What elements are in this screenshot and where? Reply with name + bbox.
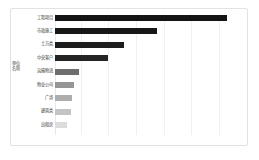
plot-area: [55, 14, 241, 135]
bar: [55, 15, 227, 21]
bar-chart-figure: 单位名称 工程项目市政施工土方类中央客户运输物流物业公司广场建筑类出租房: [0, 0, 259, 160]
bar: [55, 42, 124, 48]
bar: [55, 28, 157, 34]
y-axis-tick-label: 运输物流: [20, 68, 53, 74]
y-axis-tick-label: 物业公司: [20, 82, 53, 88]
bars-group: [55, 14, 241, 135]
y-axis-tick-label: 市政施工: [20, 28, 53, 34]
y-axis-tick-label: 出租房: [20, 122, 53, 128]
y-axis-tick-label: 土方类: [20, 41, 53, 47]
bar: [55, 69, 79, 75]
bar: [55, 55, 108, 61]
y-axis-category-labels: 工程项目市政施工土方类中央客户运输物流物业公司广场建筑类出租房: [20, 14, 53, 135]
bar: [55, 82, 74, 88]
bar: [55, 122, 67, 128]
y-axis-title: 单位名称: [12, 62, 20, 71]
y-axis-tick-label: 工程项目: [20, 15, 53, 21]
bar: [55, 109, 71, 115]
y-axis-tick-label: 中央客户: [20, 55, 53, 61]
bar: [55, 95, 72, 101]
y-axis-tick-label: 广场: [20, 95, 53, 101]
y-axis-tick-label: 建筑类: [20, 108, 53, 114]
